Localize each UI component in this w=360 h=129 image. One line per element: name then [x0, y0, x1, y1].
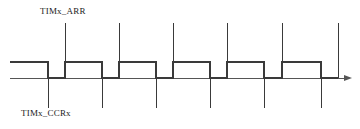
arr-marker-group	[65, 23, 338, 78]
ccr-label: TIMx_CCRx	[21, 108, 71, 118]
arr-label: TIMx_ARR	[40, 6, 86, 16]
pwm-waveform-line	[10, 62, 338, 78]
axis-arrow-icon	[344, 75, 352, 81]
ccr-marker-group	[48, 62, 321, 108]
timing-diagram-figure: TIMx_ARR TIMx_CCRx	[0, 0, 360, 129]
